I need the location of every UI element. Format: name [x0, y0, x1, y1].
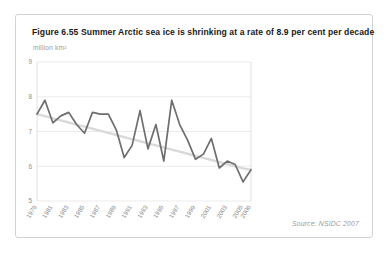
- x-axis-tick-label: 1995: [151, 203, 165, 219]
- trend-line: [37, 114, 251, 170]
- chart-plot-area: 9876519791981198319851987198919911993199…: [16, 15, 374, 239]
- source-note: Source: NSIDC 2007: [292, 220, 359, 227]
- x-axis-tick-label: 1987: [88, 203, 102, 219]
- x-axis-tick-label: 2001: [199, 203, 213, 219]
- x-axis-tick-label: 1983: [56, 203, 70, 219]
- y-axis-tick-label: 9: [28, 58, 32, 65]
- x-axis-tick-label: 1979: [25, 203, 39, 219]
- x-axis-tick-label: 1985: [72, 203, 86, 219]
- x-axis-tick-label: 2003: [215, 203, 229, 219]
- y-axis-tick-label: 7: [28, 128, 32, 135]
- x-axis-tick-label: 1989: [104, 203, 118, 219]
- x-axis-tick-label: 1993: [136, 203, 150, 219]
- y-axis-tick-label: 8: [28, 93, 32, 100]
- x-axis-tick-label: 1981: [40, 203, 54, 219]
- y-axis-tick-label: 6: [28, 163, 32, 170]
- x-axis-tick-label: 1999: [183, 203, 197, 219]
- y-axis-tick-label: 5: [28, 197, 32, 204]
- x-axis-tick-label: 1991: [120, 203, 134, 219]
- line-chart: 9876519791981198319851987198919911993199…: [16, 15, 374, 239]
- x-axis-tick-label: 1997: [167, 203, 181, 219]
- figure-card: Figure 6.55 Summer Arctic sea ice is shr…: [15, 14, 373, 238]
